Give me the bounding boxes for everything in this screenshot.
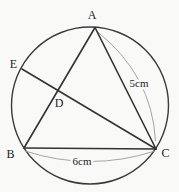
point-label-a: A <box>88 8 97 22</box>
measurement-label-ac: 5cm <box>130 77 149 89</box>
geometry-figure: A B C D E 5cm 6cm <box>0 0 179 192</box>
point-label-c: C <box>161 146 169 160</box>
side-ab <box>24 28 95 149</box>
diagram-canvas: A B C D E 5cm 6cm <box>0 0 179 192</box>
point-label-d: D <box>55 96 64 110</box>
point-label-e: E <box>10 57 17 71</box>
side-bc <box>24 148 156 149</box>
measurement-label-bc: 6cm <box>73 155 92 167</box>
point-label-b: B <box>6 147 14 161</box>
